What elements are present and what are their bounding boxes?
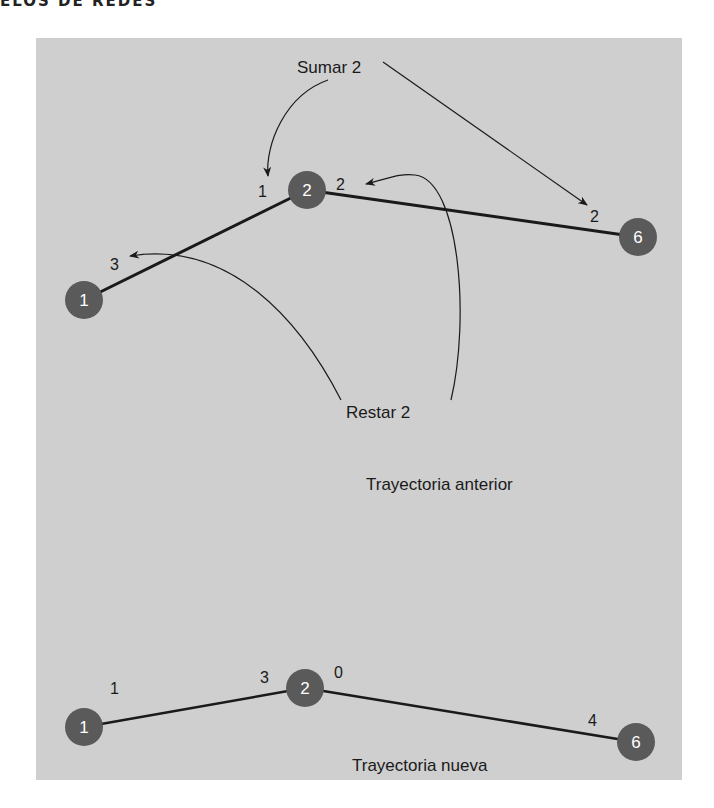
edge-2-6	[305, 688, 636, 742]
add-annotation: Sumar 2	[297, 58, 361, 77]
edge-label: 3	[260, 669, 269, 686]
add-arrow-to-2	[383, 62, 587, 205]
bottom-diagram: 1 2 6 1 3 0 4 Trayectoria nueva	[65, 664, 655, 775]
edge-label: 2	[336, 176, 345, 193]
bottom-caption: Trayectoria nueva	[352, 756, 488, 775]
edge-label: 1	[110, 680, 119, 697]
node-6-label: 6	[631, 733, 640, 752]
edge-label: 3	[110, 256, 119, 273]
edge-label: 4	[588, 712, 597, 729]
add-arrow-to-1	[268, 80, 328, 176]
edge-2-6	[307, 190, 638, 237]
top-caption: Trayectoria anterior	[366, 475, 513, 494]
node-1-label: 1	[79, 718, 88, 737]
node-6-label: 6	[633, 228, 642, 247]
network-diagram: 1 2 6 3 1 2 2 Sumar 2 Restar 2 Trayector…	[0, 0, 714, 808]
subtract-arrow-to-3	[130, 254, 341, 400]
top-diagram: 1 2 6 3 1 2 2 Sumar 2 Restar 2 Trayector…	[65, 58, 657, 494]
node-2-label: 2	[302, 181, 311, 200]
edge-label: 1	[258, 183, 267, 200]
node-2-label: 2	[300, 679, 309, 698]
edge-label: 2	[590, 208, 599, 225]
edge-1-2	[84, 190, 307, 300]
subtract-annotation: Restar 2	[346, 403, 410, 422]
node-1-label: 1	[79, 291, 88, 310]
edge-label: 0	[334, 664, 343, 681]
